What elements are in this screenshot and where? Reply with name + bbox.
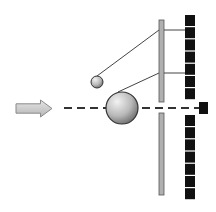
- detector-cell: [185, 188, 195, 199]
- tether-line: [118, 73, 159, 92]
- diagram-canvas: [0, 0, 216, 212]
- detector-cell: [185, 127, 195, 138]
- plate-upper: [159, 20, 164, 102]
- detector-cell: [185, 39, 195, 50]
- tether-lines: [97, 30, 159, 92]
- plate-lower: [159, 113, 164, 195]
- detector-cell: [185, 88, 195, 99]
- large-sphere: [106, 92, 138, 124]
- tether-line: [97, 30, 159, 76]
- detector-cell: [185, 176, 195, 187]
- arrow-right-icon: [16, 100, 52, 117]
- detector-cell: [185, 27, 195, 38]
- detector-cell: [185, 139, 195, 150]
- incoming-beam-arrow-icon: [16, 100, 52, 117]
- detector-cell: [185, 164, 195, 175]
- detector-cell: [185, 115, 195, 126]
- detector-cell: [185, 64, 195, 75]
- detector-cell: [185, 76, 195, 87]
- axis-detector: [199, 102, 208, 114]
- detector-cell: [185, 15, 195, 26]
- small-sphere: [91, 76, 103, 88]
- detector-cell: [185, 52, 195, 63]
- detector-cell: [185, 152, 195, 163]
- plate-detector-connectors: [164, 30, 185, 73]
- spheres: [91, 76, 138, 124]
- axis-detector-square: [199, 102, 208, 114]
